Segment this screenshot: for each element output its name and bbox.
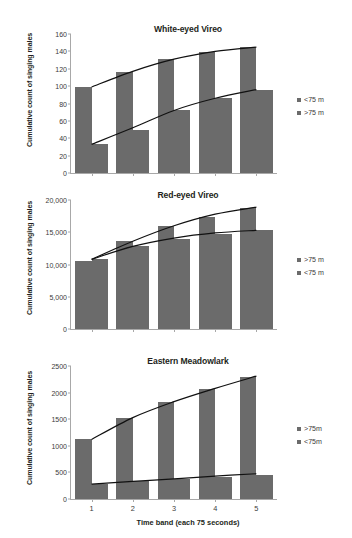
y-tick-mark <box>68 445 71 446</box>
x-tick-mark <box>215 329 216 332</box>
legend-item: >75 m <box>297 109 324 117</box>
y-tick-mark <box>68 472 71 473</box>
legend-item: <75m <box>297 438 322 446</box>
y-tick-mark <box>68 68 71 69</box>
legend-2: >75 m <75 m <box>297 256 324 282</box>
chart-title-1: White-eyed Vireo <box>78 24 298 34</box>
legend-label: >75 m <box>304 109 324 117</box>
legend-1: <75 m >75 m <box>297 96 324 122</box>
plot-area-2: 05,00010,00015,00020,000 <box>70 200 277 330</box>
figure-root: White-eyed Vireo Cumulative count of sin… <box>0 0 352 538</box>
y-tick-mark <box>68 366 71 367</box>
x-tick-mark <box>215 173 216 176</box>
legend-swatch-icon <box>297 271 301 275</box>
trendline-layer-2 <box>71 200 277 329</box>
legend-item: >75m <box>297 425 322 433</box>
legend-label: >75m <box>304 425 322 433</box>
y-tick-label: 10,000 <box>27 261 71 268</box>
legend-swatch-icon <box>297 427 301 431</box>
y-tick-mark <box>68 34 71 35</box>
y-tick-label: 40 <box>27 135 71 142</box>
y-tick-mark <box>68 155 71 156</box>
legend-3: >75m <75m <box>297 425 322 451</box>
y-tick-label: 100 <box>27 83 71 90</box>
x-tick-label: 1 <box>90 504 94 513</box>
y-tick-label: 0 <box>27 496 71 503</box>
trendline-layer-3 <box>71 366 277 499</box>
x-tick-mark <box>92 173 93 176</box>
legend-item: >75 m <box>297 256 324 264</box>
y-tick-label: 5,000 <box>27 293 71 300</box>
y-tick-mark <box>68 264 71 265</box>
y-tick-label: 140 <box>27 48 71 55</box>
trendline <box>92 90 257 145</box>
x-tick-mark <box>174 499 175 502</box>
trendline-layer-1 <box>71 34 277 173</box>
y-tick-mark <box>68 51 71 52</box>
y-tick-mark <box>68 499 71 500</box>
x-tick-mark <box>215 499 216 502</box>
y-tick-mark <box>68 86 71 87</box>
y-tick-label: 0 <box>27 326 71 333</box>
y-tick-label: 80 <box>27 100 71 107</box>
legend-swatch-icon <box>297 98 301 102</box>
plot-area-1: 020406080100120140160 <box>70 34 277 174</box>
y-tick-mark <box>68 103 71 104</box>
y-tick-mark <box>68 138 71 139</box>
x-tick-mark <box>92 499 93 502</box>
legend-label: <75m <box>304 438 322 446</box>
x-tick-label: 3 <box>172 504 176 513</box>
chart-title-2: Red-eyed Vireo <box>78 190 298 200</box>
x-tick-mark <box>92 329 93 332</box>
y-tick-mark <box>68 120 71 121</box>
y-tick-label: 2500 <box>27 363 71 370</box>
x-tick-mark <box>174 173 175 176</box>
y-tick-mark <box>68 232 71 233</box>
y-tick-label: 120 <box>27 65 71 72</box>
plot-area-3: 05001000150020002500 12345 <box>70 366 277 500</box>
y-tick-mark <box>68 329 71 330</box>
y-tick-label: 500 <box>27 469 71 476</box>
legend-label: >75 m <box>304 256 324 264</box>
legend-item: <75 m <box>297 96 324 104</box>
legend-item: <75 m <box>297 269 324 277</box>
y-tick-label: 20,000 <box>27 197 71 204</box>
x-tick-mark <box>256 499 257 502</box>
y-tick-label: 2000 <box>27 389 71 396</box>
legend-swatch-icon <box>297 111 301 115</box>
y-axis-title-3: Cumulative count of singing males <box>26 348 34 508</box>
trendline <box>92 376 257 439</box>
trendline <box>92 474 257 484</box>
x-tick-label: 5 <box>254 504 258 513</box>
y-tick-mark <box>68 296 71 297</box>
legend-label: <75 m <box>304 269 324 277</box>
y-tick-mark <box>68 173 71 174</box>
y-tick-label: 1500 <box>27 416 71 423</box>
x-axis-title: Time band (each 75 seconds) <box>68 518 308 527</box>
x-tick-label: 4 <box>213 504 217 513</box>
y-tick-mark <box>68 200 71 201</box>
chart-title-3: Eastern Meadowlark <box>78 356 298 366</box>
y-tick-label: 160 <box>27 31 71 38</box>
legend-label: <75 m <box>304 96 324 104</box>
x-tick-mark <box>133 329 134 332</box>
x-tick-mark <box>174 329 175 332</box>
y-tick-label: 15,000 <box>27 229 71 236</box>
trendline <box>92 47 257 87</box>
y-tick-mark <box>68 392 71 393</box>
y-tick-label: 60 <box>27 117 71 124</box>
legend-swatch-icon <box>297 440 301 444</box>
legend-swatch-icon <box>297 258 301 262</box>
y-tick-label: 0 <box>27 170 71 177</box>
y-tick-label: 1000 <box>27 442 71 449</box>
trendline <box>92 230 257 259</box>
x-tick-mark <box>133 173 134 176</box>
x-tick-mark <box>133 499 134 502</box>
y-tick-label: 20 <box>27 152 71 159</box>
x-tick-mark <box>256 173 257 176</box>
y-tick-mark <box>68 419 71 420</box>
x-tick-mark <box>256 329 257 332</box>
x-tick-label: 2 <box>131 504 135 513</box>
